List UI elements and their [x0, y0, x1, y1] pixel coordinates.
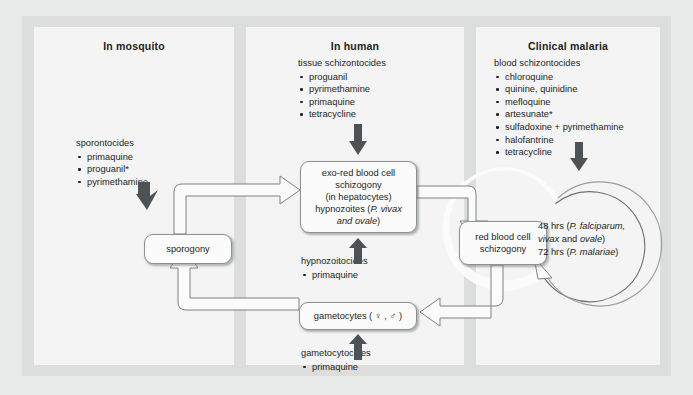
box-gametocytes[interactable]: gametocytes ( ♀ , ♂ ) — [299, 302, 417, 330]
exo-line-4: hypnozoites (P. vivax — [315, 203, 402, 215]
rbc-line-1: red blood cell — [475, 231, 530, 243]
cycle-line-3: 72 hrs (P. malariae) — [538, 246, 650, 259]
cycle-line-2: vivax and ovale) — [538, 233, 650, 246]
exo-line-5: and ovale) — [315, 215, 402, 227]
box-sporogony[interactable]: sporogony — [144, 234, 232, 264]
exo-line-2: schizogony — [315, 179, 402, 191]
exo-line-1: exo-red blood cell — [315, 167, 402, 179]
arrow-tissue-schizontocides-down — [349, 124, 367, 156]
cycle-duration-text: 48 hrs (P. falciparum, vivax and ovale) … — [538, 220, 650, 259]
box-red-blood-cell-schizogony[interactable]: red blood cell schizogony — [459, 221, 547, 265]
exo-line-3: (in hepatocytes) — [315, 191, 402, 203]
gametocytes-label: gametocytes ( ♀ , ♂ ) — [314, 310, 402, 322]
box-exo-red-blood-cell-schizogony[interactable]: exo-red blood cell schizogony (in hepato… — [300, 161, 417, 233]
arrow-blood-schizontocides-down — [570, 142, 588, 172]
rbc-line-2: schizogony — [475, 243, 530, 255]
arrow-gametocytocides-up — [349, 334, 367, 360]
sporogony-label: sporogony — [166, 243, 209, 255]
arrow-sporogony-to-exo — [174, 176, 300, 234]
arrow-rbc-to-gametocytes — [420, 265, 503, 326]
arrow-hypnozoitocides-up — [349, 238, 367, 264]
cycle-line-1: 48 hrs (P. falciparum, — [538, 220, 650, 233]
arrow-sporontocides-down — [134, 182, 160, 212]
figure-container: In mosquito sporontocides primaquine pro… — [22, 16, 671, 376]
